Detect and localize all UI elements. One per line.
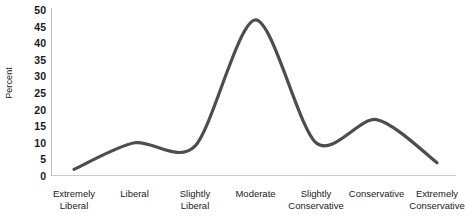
x-tick-label-line1: Conservative (349, 188, 404, 199)
y-tick-0: 0 (24, 171, 46, 182)
data-series-line (74, 20, 437, 169)
x-tick-label-line1: Extremely (416, 188, 458, 199)
y-tick-50: 50 (24, 5, 46, 16)
y-tick-20: 20 (24, 105, 46, 116)
x-tick-label-line1: Slightly (180, 188, 211, 199)
x-tick-label-line2: Liberal (53, 200, 95, 212)
x-tick-label-line1: Slightly (301, 188, 332, 199)
y-axis-title: Percent (4, 53, 14, 113)
x-tick-label-2: SlightlyLiberal (180, 188, 211, 212)
y-tick-15: 15 (24, 121, 46, 132)
y-tick-5: 5 (24, 154, 46, 165)
y-tick-25: 25 (24, 88, 46, 99)
y-tick-30: 30 (24, 71, 46, 82)
x-tick-label-line2: Conservative (409, 200, 464, 212)
y-tick-35: 35 (24, 55, 46, 66)
x-tick-label-5: Conservative (349, 188, 404, 200)
y-tick-10: 10 (24, 138, 46, 149)
line-chart-svg (51, 4, 460, 176)
ideology-distribution-chart: Percent 05101520253035404550 ExtremelyLi… (0, 0, 465, 224)
x-tick-label-line1: Moderate (235, 188, 275, 199)
plot-area (51, 4, 460, 176)
x-tick-label-line1: Liberal (120, 188, 149, 199)
x-tick-label-3: Moderate (235, 188, 275, 200)
x-tick-label-1: Liberal (120, 188, 149, 200)
x-tick-label-line2: Liberal (180, 200, 211, 212)
y-tick-45: 45 (24, 22, 46, 33)
x-axis-tick-labels: ExtremelyLiberalLiberalSlightlyLiberalMo… (0, 188, 465, 224)
x-tick-label-line1: Extremely (53, 188, 95, 199)
x-tick-label-0: ExtremelyLiberal (53, 188, 95, 212)
x-tick-label-line2: Conservative (288, 200, 343, 212)
x-tick-label-6: ExtremelyConservative (409, 188, 464, 212)
y-tick-40: 40 (24, 38, 46, 49)
x-tick-label-4: SlightlyConservative (288, 188, 343, 212)
